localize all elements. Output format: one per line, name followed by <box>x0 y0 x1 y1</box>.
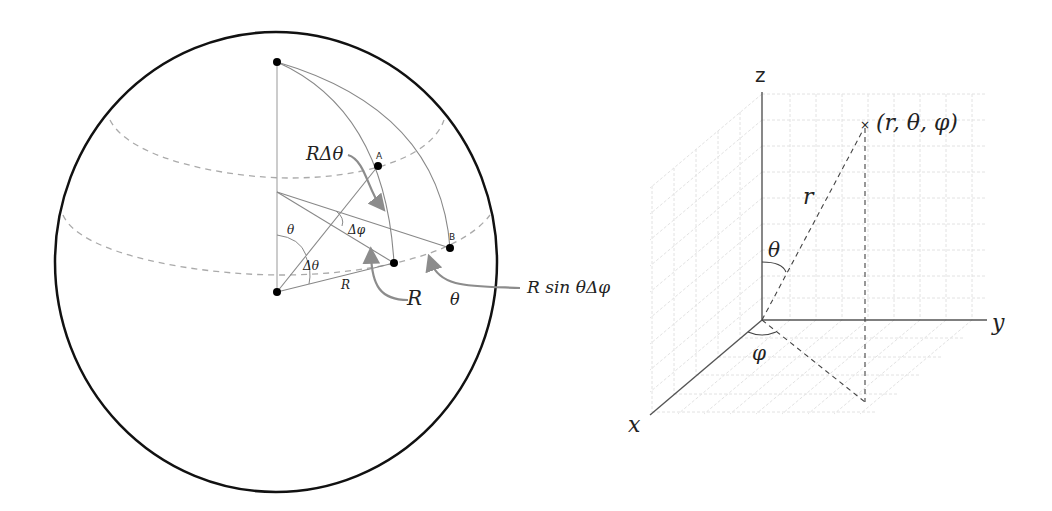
label-radius-small: R <box>340 278 350 292</box>
label-z-axis: z <box>755 63 766 87</box>
label-polar-angle: θ <box>768 238 780 262</box>
label-azimuth-angle: φ <box>752 341 766 365</box>
ring-radius-lower <box>277 192 394 263</box>
label-r-delta-theta: RΔθ <box>305 143 344 164</box>
north-pole-point <box>273 58 281 66</box>
point-a <box>374 162 382 170</box>
floor-projection-dashed <box>762 320 865 402</box>
radius-dashed <box>762 132 862 320</box>
label-r-sin-theta-delta-phi: R sin θΔφ <box>526 277 610 297</box>
label-theta-callout: θ <box>450 290 460 309</box>
point-b <box>446 244 454 252</box>
ring-radius-b <box>277 192 450 248</box>
point-marker: × <box>860 118 870 132</box>
label-point-coordinates: (r, θ, φ) <box>876 110 958 135</box>
label-point-b: B <box>449 232 455 242</box>
label-delta-theta-angle: Δθ <box>302 259 320 273</box>
label-y-axis: y <box>991 310 1005 335</box>
phi-angle-arc <box>748 332 776 335</box>
diagram-canvas: RΔθ A B Δφ θ Δθ R R θ R sin θΔφ <box>0 0 1052 511</box>
sphere-figure: RΔθ A B Δφ θ Δθ R R θ R sin θΔφ <box>55 32 610 492</box>
label-x-axis: x <box>628 412 641 437</box>
label-delta-phi: Δφ <box>347 223 366 237</box>
point-lower <box>390 259 398 267</box>
theta-angle-arc <box>762 262 786 272</box>
theta-angle-arc <box>277 235 306 255</box>
radius-to-lower <box>277 263 394 292</box>
grid-xy-plane <box>652 320 972 414</box>
label-radius: r <box>803 184 815 209</box>
spherical-coordinates-figure: z y x × (r, θ, φ) r θ φ <box>628 63 1005 437</box>
center-point <box>273 288 281 296</box>
label-point-a: A <box>376 151 383 161</box>
sphere-outline <box>55 32 497 492</box>
label-radius-callout: R <box>406 286 422 310</box>
callout-arrow-r-sin <box>431 262 520 288</box>
label-theta-angle: θ <box>287 223 295 237</box>
grid-xz-plane <box>650 94 762 412</box>
